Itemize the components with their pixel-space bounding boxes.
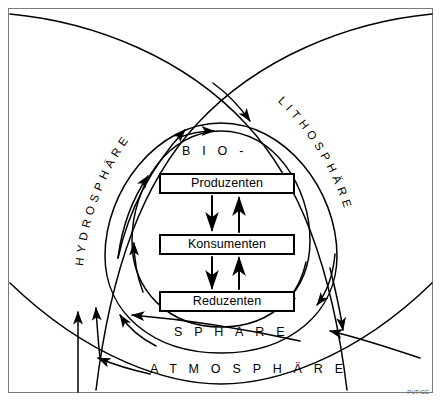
label-sphaere: S P H Ä R E	[174, 326, 289, 339]
label-lithosphaere-text: LITHOSPHÄRE	[276, 94, 355, 213]
node-box-reduzenten[interactable]: Reduzenten	[159, 291, 295, 312]
diagram-figure: HYDROSPHÄRE LITHOSPHÄRE Produzenten Kons…	[0, 0, 443, 407]
credit-text: PUT/CC	[407, 390, 429, 396]
label-hydrosphaere: HYDROSPHÄRE	[73, 131, 133, 266]
node-label-reduzenten: Reduzenten	[193, 295, 261, 308]
arrowhead-outer-hydro-bottom	[96, 308, 100, 358]
node-box-produzenten[interactable]: Produzenten	[159, 173, 295, 194]
label-bio: B I O -	[182, 145, 248, 158]
arrowhead-outer-atmo-left	[98, 358, 150, 374]
arrowhead-bottom-sweep-right	[330, 331, 420, 358]
node-box-konsumenten[interactable]: Konsumenten	[159, 234, 295, 255]
arrowhead-middle-bottom-left	[120, 315, 156, 346]
label-lithosphaere: LITHOSPHÄRE	[276, 94, 355, 213]
label-atmosphaere: A T M O S P H Ä R E	[150, 363, 347, 376]
label-hydrosphaere-text: HYDROSPHÄRE	[73, 131, 133, 266]
node-label-konsumenten: Konsumenten	[188, 238, 266, 251]
diagram-canvas: HYDROSPHÄRE LITHOSPHÄRE	[0, 0, 443, 407]
node-label-produzenten: Produzenten	[191, 177, 263, 190]
